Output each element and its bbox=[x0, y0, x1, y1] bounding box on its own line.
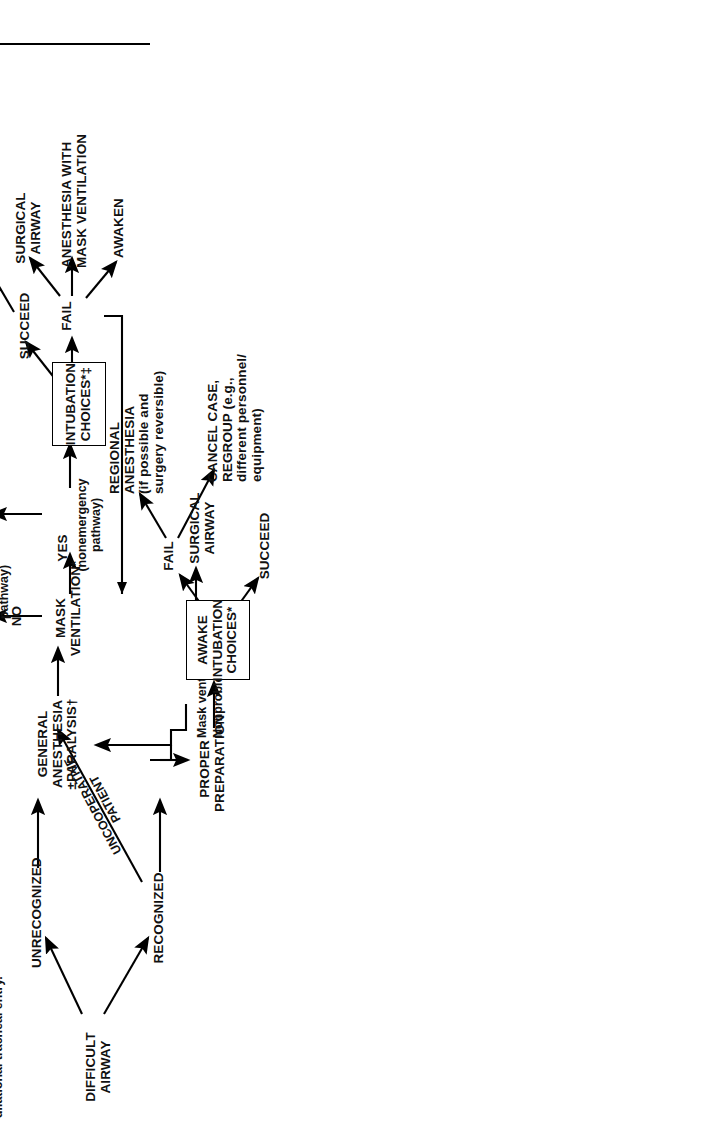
label-nonemergency-pathway: (nonemergency pathway) bbox=[76, 470, 103, 580]
node-recognized: RECOGNIZED bbox=[152, 870, 167, 966]
node-yes: YES bbox=[56, 528, 71, 568]
node-cancel-case-regroup: CANCEL CASE, REGROUP (e.g., different pe… bbox=[206, 332, 264, 482]
bracket-mask-vent bbox=[153, 704, 186, 745]
node-unrecognized: UNRECOGNIZED bbox=[30, 862, 45, 968]
node-succeed-nonemergency: SUCCEED bbox=[18, 286, 33, 366]
node-awaken-nonemergency: AWAKEN bbox=[112, 188, 127, 268]
label-emergency-pathway: (emergency pathway) bbox=[0, 542, 11, 642]
node-proper-preparation: PROPER PREPARATION bbox=[198, 726, 227, 812]
connector-layer bbox=[0, 0, 726, 1134]
node-anesthesia-with-mask-ventilation: ANESTHESIA WITH MASK VENTILATION bbox=[60, 120, 89, 268]
arrowhead-loop-maskvent bbox=[117, 582, 127, 594]
arrow-succeed-to-confirm bbox=[0, 254, 14, 312]
node-awake-succeed: SUCCEED bbox=[258, 506, 273, 586]
node-no: NO bbox=[10, 598, 25, 634]
arrow-da-to-recognized bbox=[104, 938, 148, 1014]
box-intubation-choices-nonemergency: INTUBATION CHOICES*‡ bbox=[52, 362, 106, 446]
node-fail-nonemergency: FAIL bbox=[60, 294, 75, 338]
arrow-fail-to-regional bbox=[140, 494, 166, 538]
node-surgical-airway-bottom: SURGICAL AIRWAY bbox=[188, 488, 217, 568]
node-difficult-airway: DIFFICULT AIRWAY bbox=[84, 1010, 113, 1124]
node-mask-ventilation-question: MASK VENTILATION* bbox=[54, 580, 83, 656]
step-to-prep bbox=[150, 745, 171, 760]
node-awake-fail: FAIL bbox=[162, 534, 177, 578]
footnote-3-cont-d: dilational tracheal entry. bbox=[0, 656, 6, 1126]
node-general-anesthesia: GENERAL ANESTHESIA ±PARALYSIS† bbox=[36, 692, 80, 796]
node-regional-anesthesia: REGIONAL ANESTHESIA (if possible and sur… bbox=[108, 368, 166, 494]
arrow-da-to-unrecognized bbox=[46, 938, 82, 1014]
flowchart-canvas: DIFFICULT AIRWAY RECOGNIZED UNRECOGNIZED… bbox=[0, 0, 726, 1134]
box-awake-intubation-choices: AWAKE INTUBATION CHOICES* bbox=[186, 600, 250, 680]
footnotes-block: *Always consider calling for help (e.g.,… bbox=[0, 656, 23, 1126]
node-surgical-airway-mid: SURGICAL AIRWAY bbox=[14, 188, 43, 268]
rotated-figure-wrapper: DIFFICULT AIRWAY RECOGNIZED UNRECOGNIZED… bbox=[0, 0, 726, 1134]
